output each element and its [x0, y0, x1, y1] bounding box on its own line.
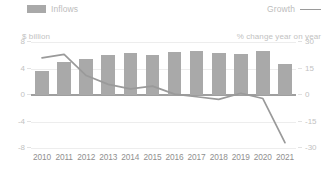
x-axis-tick-label: 2011 [53, 152, 75, 162]
chart-legend: Inflows Growth [0, 0, 329, 20]
legend-item-growth: Growth [267, 4, 321, 14]
line-swatch-icon [300, 9, 321, 10]
x-axis-tick-label: 2015 [141, 152, 163, 162]
x-axis-tick-label: 2020 [252, 152, 274, 162]
right-axis-tick-label: 30 [298, 38, 314, 46]
left-axis-tick-label: 8 [6, 38, 31, 46]
x-axis-tick-label: 2016 [164, 152, 186, 162]
legend-label-inflows: Inflows [51, 4, 78, 14]
x-axis-tick-label: 2010 [31, 152, 53, 162]
x-axis-labels: 2010201120122013201420152016201720182019… [31, 152, 296, 166]
right-axis-tick-label: -30 [298, 144, 317, 152]
x-axis-tick-label: 2012 [75, 152, 97, 162]
x-axis-tick-label: 2013 [97, 152, 119, 162]
growth-line-path [42, 54, 285, 142]
x-axis-tick-label: 2019 [230, 152, 252, 162]
x-axis-tick-label: 2017 [186, 152, 208, 162]
right-axis-tick-label: 0 [298, 91, 309, 99]
combo-chart: Inflows Growth $ billion % change year o… [0, 0, 329, 178]
left-axis-tick-label: 0 [6, 91, 31, 99]
left-axis-tick-label: -4 [6, 118, 31, 126]
gridline [31, 148, 296, 149]
legend-item-inflows: Inflows [27, 4, 78, 14]
right-axis-tick-label: 15 [298, 65, 314, 73]
bar-swatch-icon [27, 5, 46, 13]
line-series-growth [31, 42, 296, 148]
plot-area [31, 42, 296, 148]
left-axis-tick-label: -8 [6, 144, 31, 152]
x-axis-tick-label: 2021 [274, 152, 296, 162]
x-axis-tick-label: 2018 [208, 152, 230, 162]
right-axis-tick-label: -15 [298, 118, 317, 126]
left-axis-tick-label: 4 [6, 65, 31, 73]
x-axis-tick-label: 2014 [119, 152, 141, 162]
legend-label-growth: Growth [267, 4, 295, 14]
